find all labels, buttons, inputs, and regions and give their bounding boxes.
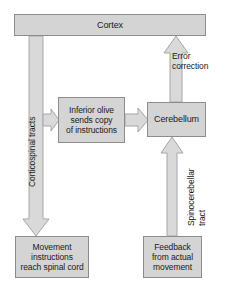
node-inferior-olive-label: Inferior olive sends copy of instruction… <box>59 105 124 135</box>
edge-label-error-correction-line-2: correction <box>172 61 208 71</box>
edge-label-corticospinal-tracts: Corticospinal tracts <box>27 117 37 187</box>
node-movement-line-1: Movement <box>16 242 88 252</box>
node-feedback-line-1: Feedback <box>144 242 201 252</box>
node-inferior-olive-line-3: of instructions <box>59 125 124 135</box>
node-movement-instructions: Movement instructions reach spinal cord <box>15 236 89 278</box>
node-cerebellum-line-1: Cerebellum <box>148 114 205 125</box>
arrow-branch-to-inferior-olive <box>43 109 59 131</box>
node-cortex-line-1: Cortex <box>15 20 205 31</box>
arrow-feedback-to-cerebellum <box>161 137 183 236</box>
node-movement-line-3: reach spinal cord <box>16 262 88 272</box>
edge-label-error-correction-line-1: Error <box>172 51 208 61</box>
node-cerebellum: Cerebellum <box>147 102 206 137</box>
node-feedback-label: Feedback from actual movement <box>144 242 201 272</box>
node-cerebellum-label: Cerebellum <box>148 114 205 125</box>
node-cortex: Cortex <box>14 14 206 36</box>
node-inferior-olive-line-2: sends copy <box>59 115 124 125</box>
edge-label-error-correction: Error correction <box>172 51 208 71</box>
node-inferior-olive: Inferior olive sends copy of instruction… <box>58 97 125 143</box>
edge-label-spinocerebellar-tract-line-1: Spinocerebellar <box>186 168 196 226</box>
node-cortex-label: Cortex <box>15 20 205 31</box>
node-feedback-line-3: movement <box>144 262 201 272</box>
node-movement-label: Movement instructions reach spinal cord <box>16 242 88 272</box>
edge-label-spinocerebellar-tract-line-2: tract <box>197 210 207 226</box>
node-movement-line-2: instructions <box>16 252 88 262</box>
node-inferior-olive-line-1: Inferior olive <box>59 105 124 115</box>
node-feedback-line-2: from actual <box>144 252 201 262</box>
arrow-inferior-olive-to-cerebellum <box>125 108 148 132</box>
node-feedback: Feedback from actual movement <box>143 236 202 278</box>
diagram-canvas: Cortex Inferior olive sends copy of inst… <box>0 0 225 298</box>
